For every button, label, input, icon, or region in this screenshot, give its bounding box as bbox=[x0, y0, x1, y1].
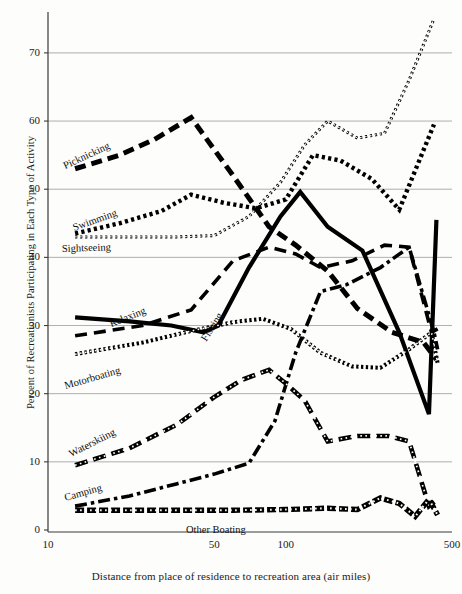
y-tick-label: 20 bbox=[14, 387, 40, 399]
y-tick-label: 10 bbox=[14, 455, 40, 467]
y-tick-label: 70 bbox=[14, 46, 40, 58]
series-label-other-boating: Other Boating bbox=[186, 524, 246, 535]
y-axis-title: Percent of Recreationists Participating … bbox=[25, 83, 36, 463]
recreation-participation-chart: Percent of Recreationists Participating … bbox=[0, 0, 462, 594]
series-line-texture bbox=[75, 498, 438, 516]
series-line bbox=[75, 370, 438, 506]
series-lines bbox=[75, 19, 438, 517]
series-line-texture bbox=[75, 19, 434, 237]
x-tick-label: 500 bbox=[432, 538, 462, 550]
series-line bbox=[75, 247, 438, 506]
gridlines bbox=[48, 53, 452, 462]
x-tick-label: 50 bbox=[194, 538, 234, 550]
plot-area bbox=[0, 0, 462, 594]
series-label-sightseeing: Sightseeing bbox=[62, 241, 111, 254]
y-tick-label: 50 bbox=[14, 182, 40, 194]
y-tick-label: 60 bbox=[14, 114, 40, 126]
series-line bbox=[75, 19, 434, 237]
y-tick-label: 0 bbox=[14, 523, 40, 535]
series-line bbox=[75, 498, 438, 516]
y-tick-label: 30 bbox=[14, 319, 40, 331]
x-axis-title: Distance from place of residence to recr… bbox=[0, 570, 462, 582]
series-line bbox=[75, 124, 434, 233]
x-tick-label: 100 bbox=[266, 538, 306, 550]
x-tick-label: 10 bbox=[28, 538, 68, 550]
series-line bbox=[75, 192, 436, 414]
y-tick-label: 40 bbox=[14, 250, 40, 262]
